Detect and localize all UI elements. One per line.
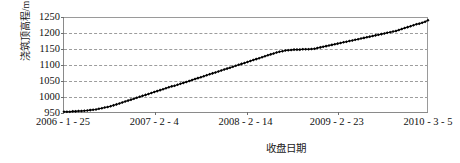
data-point-marker — [223, 68, 226, 71]
data-point-marker — [124, 100, 127, 103]
data-point-marker — [252, 59, 255, 62]
data-point-marker — [135, 96, 138, 99]
series-markers — [62, 19, 429, 114]
data-point-marker — [199, 76, 202, 79]
data-point-marker — [109, 105, 112, 108]
data-point-marker — [193, 78, 196, 81]
data-point-marker — [132, 97, 135, 100]
y-tick-label: 1000 — [39, 92, 60, 102]
data-point-marker — [208, 73, 211, 76]
data-point-marker — [351, 39, 354, 42]
data-point-marker — [89, 109, 92, 112]
data-point-marker — [115, 103, 118, 106]
y-tick-label: 1250 — [39, 12, 60, 22]
data-point-marker — [374, 34, 377, 37]
data-point-marker — [226, 67, 229, 70]
data-point-marker — [406, 26, 409, 29]
data-point-marker — [176, 83, 179, 86]
data-point-marker — [418, 22, 421, 25]
data-point-marker — [182, 81, 185, 84]
data-point-marker — [330, 43, 333, 46]
data-point-marker — [240, 62, 243, 65]
data-point-marker — [255, 58, 258, 61]
data-point-marker — [97, 107, 100, 110]
data-point-marker — [354, 38, 357, 41]
data-point-marker — [409, 25, 412, 28]
data-point-marker — [284, 49, 287, 52]
data-point-marker — [83, 109, 86, 112]
data-point-marker — [269, 53, 272, 56]
data-point-marker — [80, 110, 83, 113]
data-point-marker — [293, 48, 296, 51]
data-point-marker — [211, 72, 214, 75]
x-tick-label: 2008 - 2 - 14 — [218, 116, 272, 128]
data-point-marker — [228, 66, 231, 69]
data-point-marker — [129, 98, 132, 101]
data-point-marker — [65, 110, 68, 113]
data-point-marker — [263, 55, 266, 58]
data-point-marker — [118, 102, 121, 105]
data-point-marker — [144, 93, 147, 96]
data-point-marker — [333, 43, 336, 46]
x-tick-mark — [338, 112, 339, 115]
data-point-marker — [106, 105, 109, 108]
data-point-marker — [112, 104, 115, 107]
data-point-marker — [281, 50, 284, 53]
data-point-marker — [220, 69, 223, 72]
y-tick-label: 1050 — [39, 76, 60, 86]
data-point-marker — [304, 48, 307, 51]
data-point-marker — [319, 46, 322, 49]
data-point-marker — [138, 95, 141, 98]
data-point-marker — [325, 45, 328, 48]
y-tick-label: 1100 — [39, 60, 60, 70]
data-point-marker — [159, 89, 162, 92]
data-point-marker — [386, 31, 389, 34]
y-tick-label: 1200 — [39, 28, 60, 38]
data-point-marker — [77, 110, 80, 113]
data-point-marker — [121, 101, 124, 104]
data-point-marker — [301, 48, 304, 51]
data-point-marker — [147, 92, 150, 95]
data-point-marker — [307, 48, 310, 51]
x-tick-label: 2007 - 2 - 4 — [130, 116, 179, 128]
data-point-marker — [173, 84, 176, 87]
data-point-marker — [310, 47, 313, 50]
data-point-marker — [205, 74, 208, 77]
data-point-marker — [74, 110, 77, 113]
data-point-marker — [380, 33, 383, 36]
y-tick-mark — [61, 113, 64, 114]
data-point-marker — [342, 41, 345, 44]
data-point-marker — [365, 36, 368, 39]
data-point-marker — [295, 48, 298, 51]
data-point-marker — [164, 87, 167, 90]
data-point-marker — [287, 49, 290, 52]
data-point-marker — [103, 106, 106, 109]
data-point-marker — [298, 48, 301, 51]
data-point-marker — [150, 91, 153, 94]
data-point-marker — [258, 57, 261, 60]
data-point-marker — [170, 85, 173, 88]
data-point-marker — [92, 108, 95, 111]
data-point-marker — [278, 50, 281, 53]
data-point-marker — [191, 78, 194, 81]
data-point-marker — [234, 64, 237, 67]
data-point-marker — [336, 42, 339, 45]
data-point-marker — [161, 88, 164, 91]
data-point-marker — [357, 38, 360, 41]
data-point-marker — [156, 90, 159, 93]
data-point-marker — [68, 110, 71, 113]
x-axis-tick-labels: 2006 - 1 - 252007 - 2 - 42008 - 2 - 1420… — [0, 116, 460, 132]
x-axis-title: 收盘日期 — [0, 140, 460, 155]
data-point-marker — [400, 27, 403, 30]
data-point-marker — [313, 47, 316, 50]
data-point-marker — [86, 109, 89, 112]
x-tick-mark — [155, 112, 156, 115]
data-point-marker — [243, 61, 246, 64]
data-point-marker — [153, 91, 156, 94]
series-line — [64, 20, 428, 112]
data-point-marker — [397, 28, 400, 31]
data-point-marker — [185, 80, 188, 83]
data-point-marker — [275, 51, 278, 54]
data-point-marker — [403, 27, 406, 30]
data-point-marker — [345, 40, 348, 43]
